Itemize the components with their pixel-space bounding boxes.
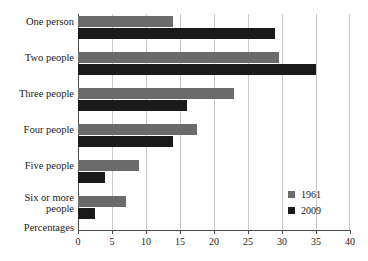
x-tick-label-15: 15 <box>165 236 195 247</box>
bar-group-four-people <box>78 122 350 158</box>
category-label-six-or-more-people: Six or more people <box>2 192 74 214</box>
bar-1961-two-people <box>78 52 279 63</box>
category-label-text: Three people <box>19 88 74 99</box>
bar-1961-four-people <box>78 124 197 135</box>
legend-label-2009: 2009 <box>301 205 321 216</box>
bar-2009-one-person <box>78 28 275 39</box>
legend-item-2009: 2009 <box>288 204 321 217</box>
x-tick-mark-25 <box>248 230 249 234</box>
x-tick-mark-15 <box>180 230 181 234</box>
x-tick-label-20: 20 <box>199 236 229 247</box>
x-tick-label-5: 5 <box>97 236 127 247</box>
bar-1961-six-or-more-people <box>78 196 126 207</box>
x-tick-label-40: 40 <box>335 236 365 247</box>
category-label-four-people: Four people <box>2 124 74 135</box>
x-tick-label-30: 30 <box>267 236 297 247</box>
legend-swatch-1961-icon <box>288 191 295 198</box>
bar-2009-two-people <box>78 64 316 75</box>
x-tick-mark-20 <box>214 230 215 234</box>
category-label-text-line1: Six or more <box>2 192 74 203</box>
x-tick-label-25: 25 <box>233 236 263 247</box>
category-label-text: Five people <box>25 160 74 171</box>
legend: 1961 2009 <box>288 188 321 220</box>
x-tick-mark-0 <box>78 230 79 234</box>
category-label-two-people: Two people <box>2 52 74 63</box>
bar-2009-five-people <box>78 172 105 183</box>
x-tick-label-10: 10 <box>131 236 161 247</box>
legend-item-1961: 1961 <box>288 188 321 201</box>
category-label-text: Two people <box>25 52 74 63</box>
bar-group-two-people <box>78 50 350 86</box>
bar-1961-three-people <box>78 88 234 99</box>
category-label-text: Four people <box>24 124 74 135</box>
bar-group-one-person <box>78 14 350 50</box>
category-label-text-line2: people <box>2 203 74 214</box>
x-tick-label-35: 35 <box>301 236 331 247</box>
x-tick-mark-10 <box>146 230 147 234</box>
bar-2009-three-people <box>78 100 187 111</box>
bar-1961-one-person <box>78 16 173 27</box>
x-tick-mark-40 <box>350 230 351 234</box>
legend-swatch-2009-icon <box>288 207 295 214</box>
y-axis-labels: One person Two people Three people Four … <box>0 14 74 230</box>
legend-label-1961: 1961 <box>301 189 321 200</box>
bar-2009-four-people <box>78 136 173 147</box>
category-label-one-person: One person <box>2 16 74 27</box>
category-label-five-people: Five people <box>2 160 74 171</box>
x-tick-mark-5 <box>112 230 113 234</box>
x-tick-mark-30 <box>282 230 283 234</box>
x-axis-title: Percentages <box>0 222 74 233</box>
bar-chart: One person Two people Three people Four … <box>0 0 368 261</box>
category-label-three-people: Three people <box>2 88 74 99</box>
bar-2009-six-or-more-people <box>78 208 95 219</box>
bar-group-three-people <box>78 86 350 122</box>
x-tick-mark-35 <box>316 230 317 234</box>
category-label-text: One person <box>26 16 74 27</box>
x-tick-label-0: 0 <box>63 236 93 247</box>
bar-1961-five-people <box>78 160 139 171</box>
